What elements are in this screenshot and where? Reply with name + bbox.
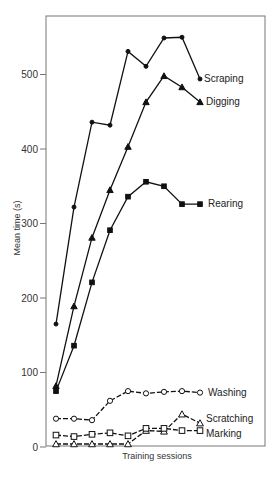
data-point (198, 202, 203, 207)
series-label-scratching: Scratching (206, 413, 253, 424)
data-point (125, 441, 132, 447)
data-point (107, 398, 112, 403)
data-point (144, 179, 149, 184)
data-point (180, 35, 184, 39)
series-washing (53, 389, 202, 423)
data-point (125, 144, 131, 150)
data-point (71, 416, 76, 421)
data-point (144, 64, 148, 68)
data-point (197, 390, 202, 395)
y-axis-label: Mean time (s) (12, 200, 22, 255)
data-point (53, 416, 58, 421)
line-chart: 0100200300400500 ScrapingDiggingRearingW… (0, 0, 276, 482)
data-point (179, 389, 184, 394)
data-point (54, 322, 58, 326)
data-point (107, 430, 113, 436)
data-point (197, 420, 204, 426)
data-point (108, 123, 112, 127)
data-point (72, 343, 77, 348)
data-point (71, 303, 77, 309)
data-point (162, 36, 166, 40)
y-axis-ticks: 0100200300400500 (21, 69, 46, 453)
data-point (179, 428, 185, 434)
data-point (107, 187, 113, 193)
series-label-digging: Digging (206, 96, 240, 107)
data-point (143, 391, 148, 396)
data-point (125, 433, 131, 439)
data-point (126, 194, 131, 199)
series-rearing (54, 179, 203, 393)
y-tick-label: 300 (21, 218, 38, 229)
y-tick-label: 0 (32, 442, 38, 453)
data-point (89, 418, 94, 423)
y-tick-label: 500 (21, 69, 38, 80)
data-point (54, 389, 59, 394)
data-point (53, 432, 59, 438)
y-tick-label: 400 (21, 144, 38, 155)
data-point (179, 411, 186, 417)
series-scraping (54, 35, 202, 326)
series-label-marking: Marking (206, 428, 242, 439)
data-point (72, 205, 76, 209)
series-layer (53, 35, 204, 446)
data-point (126, 49, 130, 53)
series-labels: ScrapingDiggingRearingWashingScratchingM… (204, 73, 253, 439)
data-point (162, 184, 167, 189)
data-point (161, 73, 167, 79)
data-point (161, 389, 166, 394)
data-point (198, 77, 202, 81)
data-point (180, 202, 185, 207)
y-tick-label: 200 (21, 293, 38, 304)
data-point (90, 280, 95, 285)
data-point (108, 228, 113, 233)
data-point (197, 428, 203, 434)
series-label-scraping: Scraping (204, 73, 243, 84)
series-marking (53, 426, 203, 440)
data-point (179, 84, 185, 90)
series-label-rearing: Rearing (208, 198, 243, 209)
data-point (71, 434, 77, 440)
data-point (89, 432, 95, 438)
x-axis-label: Training sessions (122, 451, 192, 461)
y-tick-label: 100 (21, 367, 38, 378)
data-point (89, 234, 95, 240)
data-point (143, 426, 149, 432)
data-point (161, 426, 167, 432)
data-point (90, 120, 94, 124)
data-point (125, 389, 130, 394)
series-label-washing: Washing (208, 387, 247, 398)
